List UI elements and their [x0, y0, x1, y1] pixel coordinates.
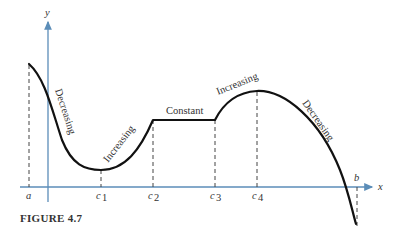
figure-caption: FIGURE 4.7	[20, 212, 82, 224]
segment-label-constant: Constant	[166, 105, 203, 116]
svg-text:c: c	[148, 190, 153, 201]
tick-c3: c 3	[210, 190, 221, 203]
svg-text:3: 3	[216, 192, 221, 203]
segment-label-increasing-1: Increasing	[101, 122, 137, 164]
segment-label-decreasing-2: Decreasing	[300, 98, 337, 144]
svg-text:4: 4	[258, 192, 264, 203]
svg-text:1: 1	[102, 192, 107, 203]
guide-lines	[29, 65, 357, 226]
segment-label-decreasing-1: Decreasing	[53, 87, 78, 136]
function-graph: x y a c 1 c 2 c 3 c 4 b Decreasing Incre…	[0, 0, 412, 242]
tick-c4: c 4	[252, 190, 264, 203]
svg-text:c: c	[252, 190, 257, 201]
svg-text:2: 2	[154, 192, 159, 203]
tick-b: b	[354, 172, 359, 183]
tick-a: a	[26, 190, 31, 201]
x-axis-label: x	[377, 181, 383, 192]
tick-c1: c 1	[96, 190, 107, 203]
segment-label-increasing-2: Increasing	[215, 70, 260, 97]
tick-c2: c 2	[148, 190, 159, 203]
function-curve	[29, 64, 356, 224]
y-axis-label: y	[44, 7, 50, 18]
svg-text:c: c	[210, 190, 215, 201]
svg-text:c: c	[96, 190, 101, 201]
